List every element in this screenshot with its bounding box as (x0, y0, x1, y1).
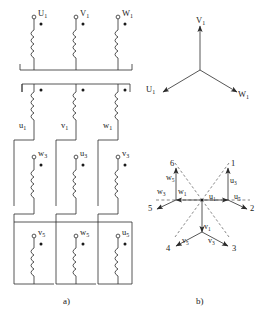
caption-b: b) (196, 296, 204, 306)
phasor-label-v1: V1 (196, 16, 205, 25)
six-phase-label-v5: v5 (182, 236, 189, 245)
six-phase-label-u1: u1 (209, 192, 216, 201)
six-phase-label-w5: w5 (166, 173, 175, 182)
six-phase-terminal-1: 1 (231, 158, 235, 168)
figure-root: U1 V1 W1 u1 v1 w1 w3 u3 v3 v5 w5 u5 (0, 0, 266, 322)
six-phase-label-u3: u3 (230, 176, 237, 185)
six-phase-label-w3: w3 (157, 187, 166, 196)
six-phase-terminal-6: 6 (170, 158, 174, 168)
six-phase-terminal-3: 3 (232, 243, 236, 253)
six-phase-label-v3: v3 (208, 236, 215, 245)
phasor-vector-u1 (163, 70, 200, 92)
six-phase-center (201, 199, 204, 202)
phasor-label-w1: W1 (238, 90, 249, 99)
six-phase-label-w1: w1 (178, 187, 187, 196)
caption-a: a) (63, 296, 70, 306)
six-phase-label-v1: v1 (204, 222, 211, 231)
phasor-vector-w1 (200, 70, 237, 92)
phasor-vector-v5-6 (176, 232, 202, 246)
phasor-vector-v3-6 (202, 232, 228, 246)
six-phase-label-u5: u5 (234, 192, 241, 201)
phasor-label-u1: U1 (146, 85, 155, 94)
six-phase-terminal-4: 4 (166, 243, 170, 253)
phasor-drawings (0, 0, 266, 322)
six-phase-terminal-2: 2 (250, 203, 254, 213)
six-phase-terminal-5: 5 (148, 203, 152, 213)
phasor-vector-w3-6 (157, 200, 176, 209)
